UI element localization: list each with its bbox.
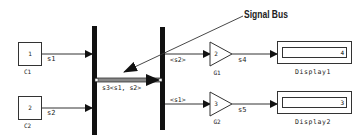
gain-g2-name: G2 bbox=[210, 119, 224, 125]
constant-c2-name: C2 bbox=[24, 123, 31, 129]
display2-value: 3 bbox=[282, 97, 347, 108]
display-block-2[interactable]: 3 bbox=[277, 91, 352, 114]
signal-label-s1-selected: <s1> bbox=[170, 97, 186, 104]
gain-g2-value: 3 bbox=[213, 101, 219, 107]
constant-block-c1[interactable]: 1 bbox=[18, 42, 42, 66]
signal-label-s1: s1 bbox=[47, 56, 55, 63]
display1-value: 4 bbox=[282, 47, 347, 58]
gain-g1-name: G1 bbox=[210, 70, 224, 76]
display2-name: Display2 bbox=[295, 119, 331, 126]
constant-c2-value: 2 bbox=[19, 105, 41, 111]
signal-bus-annotation: Signal Bus bbox=[244, 9, 288, 20]
gain-g1-value: 2 bbox=[213, 51, 219, 57]
display1-name: Display1 bbox=[295, 69, 331, 76]
signal-label-s2-selected: <s2> bbox=[170, 57, 186, 64]
signal-label-s3: s3<s1, s2> bbox=[102, 85, 141, 92]
signal-label-s4: s4 bbox=[238, 57, 246, 64]
display-block-1[interactable]: 4 bbox=[277, 41, 352, 64]
signal-label-s2: s2 bbox=[47, 110, 55, 117]
constant-c1-name: C1 bbox=[24, 69, 31, 75]
constant-block-c2[interactable]: 2 bbox=[18, 96, 42, 120]
constant-c1-value: 1 bbox=[19, 51, 41, 57]
signal-label-s5: s5 bbox=[238, 107, 246, 114]
